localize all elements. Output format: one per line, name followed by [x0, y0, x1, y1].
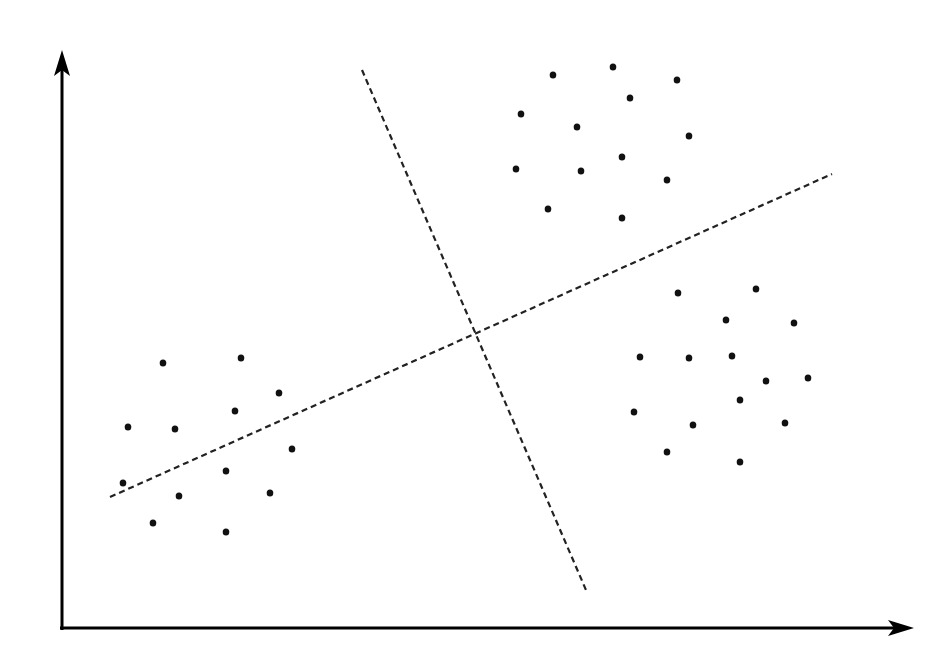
data-points [120, 63, 812, 535]
data-point [805, 374, 812, 381]
data-point [267, 489, 274, 496]
scatter-chart [0, 0, 949, 666]
data-point [176, 492, 183, 499]
data-point [150, 519, 157, 526]
data-point [550, 71, 557, 78]
data-point [289, 445, 296, 452]
data-point [232, 407, 239, 414]
data-point [686, 354, 693, 361]
data-point [574, 123, 581, 130]
cluster-top-right [513, 63, 693, 221]
data-point [631, 408, 638, 415]
data-point [160, 359, 167, 366]
data-point [763, 377, 770, 384]
data-point [276, 389, 283, 396]
data-point [753, 285, 760, 292]
data-point [238, 354, 245, 361]
data-point [664, 176, 671, 183]
data-point [637, 353, 644, 360]
cluster-left [120, 354, 296, 535]
data-point [518, 110, 525, 117]
data-point [674, 76, 681, 83]
data-point [172, 425, 179, 432]
axes [54, 50, 914, 636]
data-point [627, 94, 634, 101]
data-point [686, 132, 693, 139]
cluster-bottom-right [631, 285, 812, 465]
data-point [120, 479, 127, 486]
data-point [610, 63, 617, 70]
data-point [737, 458, 744, 465]
data-point [513, 165, 520, 172]
data-point [223, 467, 230, 474]
data-point [125, 423, 132, 430]
separator-line-1 [110, 174, 832, 497]
data-point [782, 419, 789, 426]
data-point [619, 153, 626, 160]
data-point [737, 396, 744, 403]
separator-lines [110, 70, 832, 590]
data-point [619, 214, 626, 221]
data-point [675, 289, 682, 296]
data-point [578, 167, 585, 174]
data-point [545, 205, 552, 212]
data-point [729, 352, 736, 359]
data-point [690, 421, 697, 428]
data-point [723, 316, 730, 323]
data-point [223, 528, 230, 535]
separator-line-2 [362, 70, 586, 590]
data-point [791, 319, 798, 326]
data-point [664, 448, 671, 455]
